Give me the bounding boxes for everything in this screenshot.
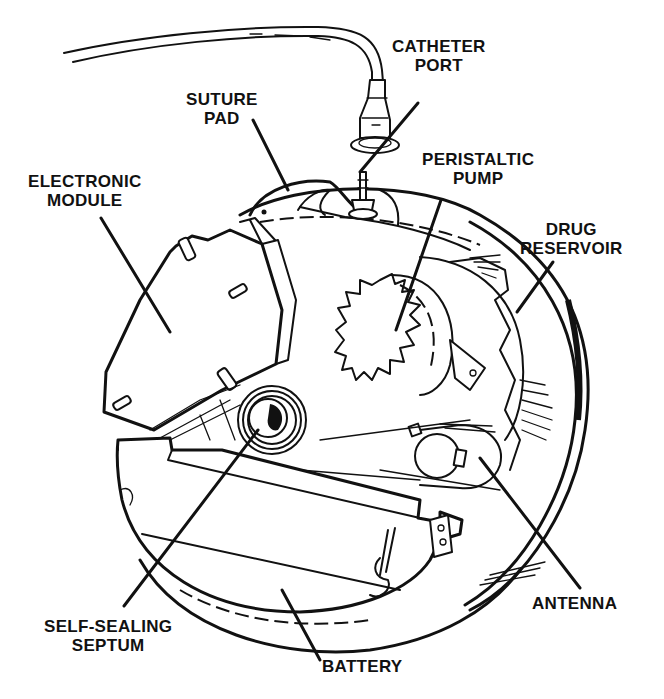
label-line: ANTENNA <box>532 594 617 613</box>
label-line: PAD <box>186 109 258 128</box>
label-self-sealing-septum: SELF-SEALING SEPTUM <box>44 617 172 655</box>
label-suture-pad: SUTURE PAD <box>186 90 258 128</box>
catheter-port-nipple <box>349 172 377 219</box>
label-line: BATTERY <box>322 657 402 676</box>
label-line: ELECTRONIC <box>28 172 142 191</box>
label-line: SELF-SEALING <box>44 617 172 636</box>
leader-drug-reservoir <box>517 262 553 312</box>
catheter-connector <box>351 80 399 153</box>
label-line: CATHETER <box>392 37 486 56</box>
label-antenna: ANTENNA <box>532 594 617 613</box>
label-battery: BATTERY <box>322 657 402 676</box>
label-line: MODULE <box>28 191 142 210</box>
leader-suture-pad <box>253 120 288 190</box>
leader-antenna <box>480 458 580 588</box>
label-line: SEPTUM <box>44 636 172 655</box>
label-line: PORT <box>392 56 486 75</box>
label-electronic-module: ELECTRONIC MODULE <box>28 172 142 210</box>
diagram-canvas: CATHETER PORT SUTURE PAD PERISTALTIC PUM… <box>0 0 664 699</box>
leader-peristaltic-pump <box>396 200 441 330</box>
label-line: RESERVOIR <box>520 239 623 258</box>
electronic-module <box>104 218 296 440</box>
label-peristaltic-pump: PERISTALTIC PUMP <box>422 150 534 188</box>
label-line: SUTURE <box>186 90 258 109</box>
label-line: DRUG <box>520 220 623 239</box>
label-line: PERISTALTIC <box>422 150 534 169</box>
catheter-tube <box>64 27 383 82</box>
battery-compartment <box>117 438 520 652</box>
label-line: PUMP <box>422 169 534 188</box>
label-drug-reservoir: DRUG RESERVOIR <box>520 220 623 258</box>
label-catheter-port: CATHETER PORT <box>392 37 486 75</box>
